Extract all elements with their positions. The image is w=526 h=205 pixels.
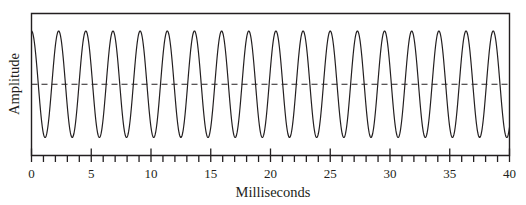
x-tick-label: 35 [443, 166, 456, 181]
x-tick-label: 40 [503, 166, 516, 181]
x-tick-label: 30 [384, 166, 397, 181]
y-axis-title: Amplitude [6, 53, 22, 115]
x-axis-title: Milliseconds [236, 184, 311, 200]
x-axis-tick-labels: 0510152025303540 [28, 166, 516, 181]
chart-canvas: 0510152025303540 Milliseconds Amplitude [0, 0, 526, 205]
sine-wave-chart: 0510152025303540 Milliseconds Amplitude [0, 0, 526, 205]
x-tick-label: 5 [88, 166, 95, 181]
x-tick-label: 10 [145, 166, 158, 181]
x-tick-label: 15 [204, 166, 217, 181]
x-tick-label: 20 [264, 166, 277, 181]
x-tick-label: 0 [28, 166, 35, 181]
x-tick-label: 25 [324, 166, 337, 181]
